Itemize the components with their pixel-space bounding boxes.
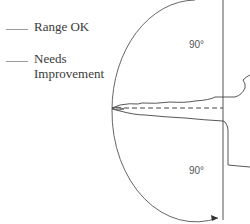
arm-outline-upper: [112, 80, 245, 108]
arm-outline-lower: [112, 109, 250, 167]
lower-angle-label: 90°: [189, 165, 204, 176]
range-of-motion-diagram: 90° 90°: [0, 0, 250, 224]
shoulder-outline: [243, 75, 250, 80]
arrowhead-icon: [211, 215, 218, 221]
upper-angle-label: 90°: [189, 39, 204, 50]
range-arc: [112, 0, 218, 222]
